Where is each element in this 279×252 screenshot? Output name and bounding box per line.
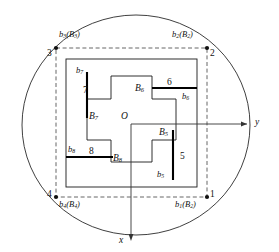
corner-label-4-b-sub: 4 (63, 203, 66, 209)
label-b6: b6 (182, 92, 189, 102)
origin-label: O (121, 112, 128, 122)
y-axis-label: y (255, 118, 259, 128)
diagram-canvas (0, 0, 279, 252)
label-B6: B6 (135, 84, 144, 94)
label-b7-sub: 7 (80, 69, 83, 75)
label-b7: b7 (76, 66, 83, 76)
label-B8: B8 (113, 154, 122, 164)
corner-label-2-B-sub: 2 (187, 33, 190, 39)
corner-label-4-B-sub: 4 (74, 203, 77, 209)
x-axis-arrowhead (129, 234, 134, 241)
corner-dot-2 (205, 46, 209, 50)
corner-label-2-b-sub: 2 (176, 33, 179, 39)
corner-label-1-B-sub: 2 (190, 203, 193, 209)
label-B8-sub: 8 (119, 156, 122, 163)
figure-container: b3(B3) b2(B2) b4(B4) b1(B2) 3 2 4 1 b7 b… (0, 0, 279, 252)
label-b8-sub: 8 (72, 148, 75, 154)
label-B7: B7 (89, 112, 98, 122)
corner-number-3: 3 (47, 49, 52, 59)
label-B5-sub: 5 (165, 130, 168, 137)
corner-label-3: b3(B3) (59, 30, 80, 40)
corner-number-1: 1 (210, 190, 215, 200)
region-number-5: 5 (180, 152, 185, 162)
region-number-8: 8 (89, 147, 94, 157)
corner-label-1-b-sub: 1 (179, 203, 182, 209)
corner-number-4: 4 (47, 190, 52, 200)
label-B7-sub: 7 (95, 114, 98, 121)
label-b5: b5 (157, 170, 164, 180)
corner-dot-3 (54, 46, 58, 50)
region-number-7: 7 (83, 86, 88, 96)
label-B5: B5 (159, 128, 168, 138)
label-B6-sub: 6 (141, 86, 144, 93)
inner-square (66, 59, 197, 187)
corner-label-2: b2(B2) (172, 30, 193, 40)
corner-label-1: b1(B2) (175, 200, 196, 210)
corner-label-3-b-sub: 3 (63, 33, 66, 39)
x-axis-label: x (119, 236, 123, 246)
corner-dot-4 (54, 195, 58, 199)
y-axis-arrowhead (241, 122, 247, 127)
region-number-6: 6 (167, 78, 172, 88)
label-b6-sub: 6 (186, 95, 189, 101)
corner-label-4: b4(B4) (59, 200, 80, 210)
corner-label-3-B-sub: 3 (74, 33, 77, 39)
corner-dot-1 (205, 195, 209, 199)
label-b8: b8 (68, 145, 75, 155)
corner-number-2: 2 (210, 49, 215, 59)
label-b5-sub: 5 (161, 173, 164, 179)
